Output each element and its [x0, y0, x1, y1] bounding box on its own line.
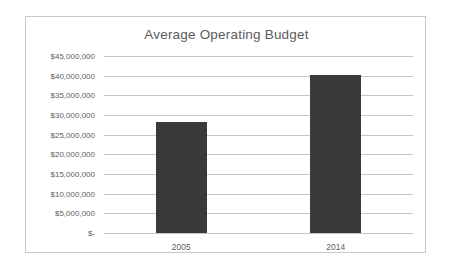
y-axis-tick-label: $10,000,000 — [51, 189, 96, 198]
x-axis-tick-label: 2005 — [172, 242, 191, 252]
y-axis-tick-label: $45,000,000 — [51, 52, 96, 61]
gridline — [104, 95, 413, 96]
gridline — [104, 115, 413, 116]
gridline — [104, 135, 413, 136]
chart-frame: Average Operating Budget $45,000,000$40,… — [25, 16, 426, 253]
gridline — [104, 76, 413, 77]
y-axis-tick-label: $5,000,000 — [55, 209, 95, 218]
y-axis-tick-label: $15,000,000 — [51, 170, 96, 179]
bar-2014 — [310, 75, 361, 233]
chart-title: Average Operating Budget — [26, 27, 427, 42]
y-axis-tick-label: $35,000,000 — [51, 91, 96, 100]
chart-screenshot: Average Operating Budget $45,000,000$40,… — [0, 0, 454, 269]
x-axis-tick-label: 2014 — [326, 242, 345, 252]
gridline — [104, 213, 413, 214]
plot-area: $45,000,000$40,000,000$35,000,000$30,000… — [104, 56, 413, 233]
y-axis-tick-label: $40,000,000 — [51, 71, 96, 80]
gridline — [104, 174, 413, 175]
gridline — [104, 194, 413, 195]
bar-2005 — [156, 122, 207, 233]
gridline — [104, 233, 413, 234]
gridline — [104, 154, 413, 155]
y-axis-tick-label: $25,000,000 — [51, 130, 96, 139]
y-axis-tick-label: $30,000,000 — [51, 111, 96, 120]
y-axis-tick-label: $20,000,000 — [51, 150, 96, 159]
gridline — [104, 56, 413, 57]
y-axis-tick-label: $- — [88, 229, 95, 238]
